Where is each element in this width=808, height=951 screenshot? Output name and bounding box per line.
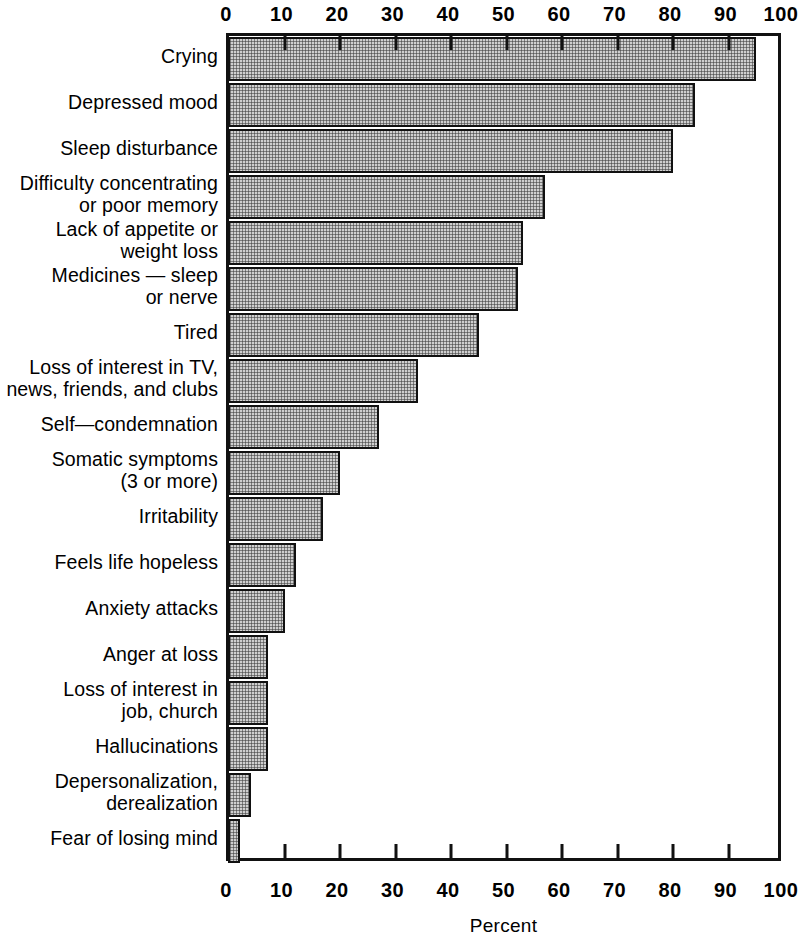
category-label-12: Anxiety attacks (0, 597, 218, 619)
bar-somatic-symptoms-3-or-more (228, 451, 340, 495)
x-tick-mark-30 (394, 36, 397, 50)
category-label-6: Tired (0, 321, 218, 343)
x-tick-mark-80 (672, 844, 675, 858)
category-label-17: Fear of losing mind (0, 827, 218, 849)
x-tick-mark-60 (561, 844, 564, 858)
x-tick-label-top-90: 90 (714, 2, 737, 26)
category-label-2: Sleep disturbance (0, 137, 218, 159)
bar-row (229, 450, 778, 496)
category-label-16: Depersonalization, derealization (0, 770, 218, 814)
x-tick-mark-50 (505, 36, 508, 50)
x-tick-mark-90 (727, 844, 730, 858)
x-tick-label-bottom-60: 60 (547, 878, 570, 902)
bar-crying (228, 37, 756, 81)
x-tick-label-bottom-100: 100 (764, 878, 799, 902)
category-label-11: Feels life hopeless (0, 551, 218, 573)
x-tick-label-top-100: 100 (764, 2, 799, 26)
bar-row (229, 266, 778, 312)
bar-feels-life-hopeless (228, 543, 296, 587)
bar-loss-of-interest-in-job-church (228, 681, 268, 725)
x-tick-mark-80 (672, 36, 675, 50)
x-tick-mark-10 (283, 36, 286, 50)
bar-row (229, 542, 778, 588)
bar-row (229, 726, 778, 772)
bottom-axis-tick-labels: 0102030405060708090100 (0, 878, 808, 904)
x-tick-label-bottom-50: 50 (492, 878, 515, 902)
x-tick-label-bottom-30: 30 (381, 878, 404, 902)
x-tick-mark-20 (339, 844, 342, 858)
bar-row (229, 818, 778, 864)
bar-row (229, 312, 778, 358)
category-label-13: Anger at loss (0, 643, 218, 665)
bar-row (229, 82, 778, 128)
bar-row (229, 174, 778, 220)
x-tick-label-top-20: 20 (325, 2, 348, 26)
bar-irritability (228, 497, 323, 541)
x-tick-label-top-70: 70 (603, 2, 626, 26)
x-tick-label-bottom-90: 90 (714, 878, 737, 902)
x-tick-label-top-40: 40 (436, 2, 459, 26)
bar-row (229, 128, 778, 174)
category-label-15: Hallucinations (0, 735, 218, 757)
category-label-0: Crying (0, 45, 218, 67)
x-tick-label-bottom-40: 40 (436, 878, 459, 902)
category-label-7: Loss of interest in TV, news, friends, a… (0, 356, 218, 400)
bar-row (229, 36, 778, 82)
x-tick-label-bottom-10: 10 (270, 878, 293, 902)
bar-row (229, 220, 778, 266)
x-tick-label-top-80: 80 (658, 2, 681, 26)
bar-self-condemnation (228, 405, 379, 449)
bar-row (229, 772, 778, 818)
bar-depersonalization-derealization (228, 773, 251, 817)
category-label-4: Lack of appetite or weight loss (0, 218, 218, 262)
bar-row (229, 358, 778, 404)
bar-difficulty-concentrating-or-poor-memory (228, 175, 545, 219)
percent-bar-chart: 0102030405060708090100 CryingDepressed m… (0, 0, 808, 951)
x-tick-mark-70 (616, 844, 619, 858)
bar-loss-of-interest-in-tv-news-friends-and-clubs (228, 359, 418, 403)
category-label-1: Depressed mood (0, 91, 218, 113)
bar-row (229, 496, 778, 542)
category-axis-labels: CryingDepressed moodSleep disturbanceDif… (0, 33, 218, 861)
x-tick-label-top-50: 50 (492, 2, 515, 26)
category-label-8: Self—condemnation (0, 413, 218, 435)
category-label-3: Difficulty concentrating or poor memory (0, 172, 218, 216)
x-tick-label-top-10: 10 (270, 2, 293, 26)
bar-lack-of-appetite-or-weight-loss (228, 221, 523, 265)
category-label-10: Irritability (0, 505, 218, 527)
bar-anxiety-attacks (228, 589, 285, 633)
x-tick-label-top-60: 60 (547, 2, 570, 26)
bar-fear-of-losing-mind (228, 819, 240, 863)
plot-area (226, 33, 781, 861)
bar-row (229, 588, 778, 634)
x-tick-mark-60 (561, 36, 564, 50)
x-tick-label-bottom-0: 0 (220, 878, 232, 902)
category-label-5: Medicines — sleep or nerve (0, 264, 218, 308)
bar-depressed-mood (228, 83, 695, 127)
bars-container (229, 36, 778, 858)
bar-sleep-disturbance (228, 129, 673, 173)
bar-anger-at-loss (228, 635, 268, 679)
x-tick-label-bottom-20: 20 (325, 878, 348, 902)
x-tick-mark-40 (450, 36, 453, 50)
bar-tired (228, 313, 479, 357)
category-label-14: Loss of interest in job, church (0, 678, 218, 722)
x-tick-mark-50 (505, 844, 508, 858)
x-tick-label-top-30: 30 (381, 2, 404, 26)
x-tick-mark-90 (727, 36, 730, 50)
bar-row (229, 634, 778, 680)
x-tick-mark-20 (339, 36, 342, 50)
x-tick-label-bottom-70: 70 (603, 878, 626, 902)
top-axis-tick-labels: 0102030405060708090100 (0, 2, 808, 28)
x-tick-label-bottom-80: 80 (658, 878, 681, 902)
x-tick-mark-70 (616, 36, 619, 50)
bar-row (229, 680, 778, 726)
x-tick-mark-10 (283, 844, 286, 858)
bar-row (229, 404, 778, 450)
bar-medicines-sleep-or-nerve (228, 267, 518, 311)
x-tick-mark-40 (450, 844, 453, 858)
bar-hallucinations (228, 727, 268, 771)
x-tick-label-top-0: 0 (220, 2, 232, 26)
x-axis-title: Percent (226, 915, 781, 937)
x-tick-mark-30 (394, 844, 397, 858)
